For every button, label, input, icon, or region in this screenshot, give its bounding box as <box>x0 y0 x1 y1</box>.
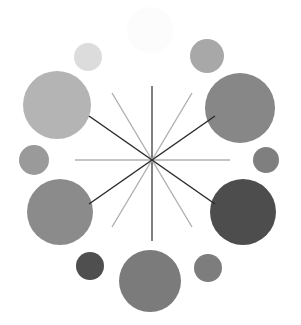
bubble-bottom-left <box>76 252 104 280</box>
bubble-top-left <box>74 43 102 71</box>
radial-bubble-diagram <box>0 0 301 325</box>
bubble-top <box>127 7 173 53</box>
bubble-bottom-right <box>194 254 222 282</box>
figure-canvas <box>0 0 301 325</box>
bubble-top-right <box>190 39 224 73</box>
bubble-left-lower <box>27 179 93 245</box>
bubble-right <box>253 147 279 173</box>
bubble-right-lower <box>210 179 276 245</box>
bubble-right-upper <box>205 73 275 143</box>
bubble-left-upper <box>23 71 91 139</box>
bubble-left <box>19 145 49 175</box>
bubble-bottom <box>119 250 181 312</box>
